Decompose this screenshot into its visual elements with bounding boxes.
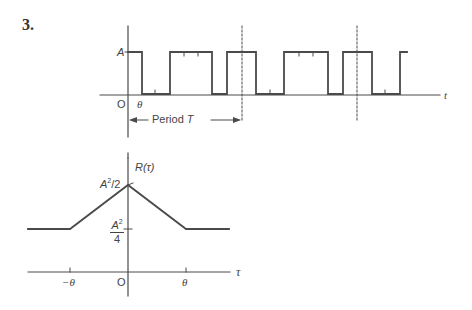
peak-label: A2/2 [100,177,120,190]
amplitude-label: A [117,47,124,58]
period-label: Period T [152,114,194,125]
top-origin-label: O [117,99,126,110]
floor-label: A2 4 [110,218,124,245]
square-wave [128,52,407,94]
diagram-canvas [0,0,472,310]
t-axis-label: t [444,90,447,101]
theta-label: θ [137,99,142,110]
arrow-right-icon [233,117,241,123]
tau-axis-label: τ [236,266,240,278]
pos-theta-tick-label: θ [182,277,187,288]
r-tau-label: R(τ) [135,162,154,173]
bottom-origin-label: O [117,277,126,288]
neg-theta-tick-label: −θ [62,277,75,288]
arrow-left-icon [129,117,137,123]
